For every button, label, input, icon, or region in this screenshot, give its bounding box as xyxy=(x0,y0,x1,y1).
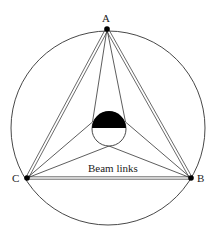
link-c-to-inner-left xyxy=(27,122,93,178)
beam-link-cb xyxy=(27,177,191,179)
beam-link-ab xyxy=(106,29,193,178)
node-c-dot xyxy=(24,175,30,181)
beam-links-caption: Beam links xyxy=(88,162,138,174)
node-b-label: B xyxy=(197,172,204,184)
tangent-line-left xyxy=(93,29,108,122)
beam-link-ac xyxy=(26,29,109,178)
beam-links-diagram: A B C Beam links xyxy=(0,0,216,236)
inner-circle-filled-half xyxy=(92,111,126,128)
node-b-dot xyxy=(188,175,194,181)
node-a-dot xyxy=(104,26,110,32)
node-a-label: A xyxy=(102,12,110,24)
node-c-label: C xyxy=(12,172,19,184)
